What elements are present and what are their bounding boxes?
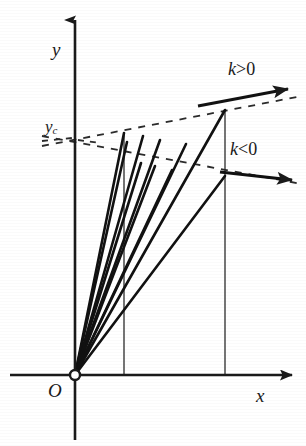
k-negative-label: k<0 — [230, 140, 257, 158]
k-negative-operator: < — [238, 139, 248, 159]
y-c-label: yc — [45, 118, 57, 136]
y-axis-label: y — [52, 40, 60, 59]
k-negative-symbol: k — [230, 139, 238, 159]
k-negative-value: 0 — [248, 139, 257, 159]
y-c-tick-mark-right — [78, 140, 100, 143]
k-positive-symbol: k — [228, 59, 236, 79]
origin-marker — [70, 370, 80, 380]
k-positive-value: 0 — [246, 59, 255, 79]
y-c-subscript: c — [53, 124, 58, 136]
k-positive-label: k>0 — [228, 60, 255, 78]
k-negative-arrow-shaft — [220, 172, 292, 180]
upper-slope-dashed — [42, 96, 302, 146]
y-c-base: y — [45, 117, 53, 136]
k-positive-arrow-shaft — [198, 89, 288, 106]
ray-7 — [75, 163, 141, 375]
origin-label: O — [48, 381, 62, 400]
x-axis-label: x — [256, 386, 264, 405]
figure-canvas: y x O yc k>0 k<0 — [0, 0, 306, 446]
axes — [10, 20, 292, 440]
ray-6 — [75, 110, 225, 375]
k-positive-operator: > — [236, 59, 246, 79]
ray-fan — [75, 110, 225, 375]
diagram-svg — [0, 0, 306, 446]
